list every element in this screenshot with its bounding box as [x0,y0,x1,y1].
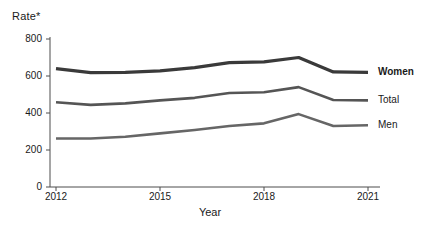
x-axis-title: Year [0,206,433,218]
series-line-women [56,58,368,73]
series-label-total: Total [378,94,399,105]
x-axis-title-text: Year [199,206,221,218]
x-tick-marks [56,187,368,191]
series-label-women: Women [378,66,414,77]
series-line-men [56,114,368,138]
line-chart: Rate* 800 600 400 200 0 2012 2015 2018 2… [0,0,433,239]
series-label-men: Men [378,119,397,130]
axes [50,37,380,187]
series-line-total [56,87,368,105]
data-series-group [56,58,368,139]
y-tick-marks [46,39,50,187]
plot-area [0,0,433,239]
